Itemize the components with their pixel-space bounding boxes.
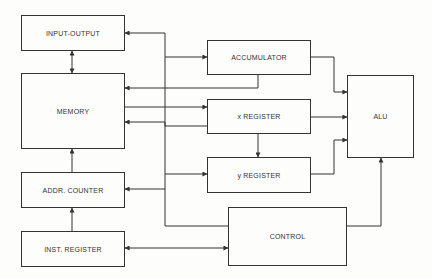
input-output-label: INPUT-OUTPUT [46, 30, 100, 37]
inst-register-block: INST. REGISTER [21, 231, 125, 267]
wire-y_register-to-alu [311, 140, 347, 174]
addr-counter-label: ADDR. COUNTER [43, 187, 104, 194]
alu-label: ALU [373, 113, 387, 120]
accumulator-label: ACCUMULATOR [231, 54, 287, 61]
wire-control-to-alu [347, 158, 381, 226]
wire-accumulator-to-alu [311, 57, 347, 92]
control-block: CONTROL [228, 207, 347, 266]
alu-block: ALU [347, 75, 414, 158]
x-register-block: x REGISTER [207, 99, 311, 134]
memory-block: MEMORY [21, 73, 125, 149]
input-output-block: INPUT-OUTPUT [21, 15, 125, 51]
wire-accumulator-to-memory [125, 75, 258, 88]
addr-counter-block: ADDR. COUNTER [21, 172, 125, 208]
x-register-label: x REGISTER [237, 113, 280, 120]
wire-x_register-to-memory [125, 122, 207, 126]
memory-label: MEMORY [57, 108, 90, 115]
control-label: CONTROL [270, 233, 306, 240]
inst-register-label: INST. REGISTER [44, 246, 102, 253]
y-register-block: y REGISTER [207, 157, 311, 193]
y-register-label: y REGISTER [237, 172, 280, 179]
accumulator-block: ACCUMULATOR [207, 40, 311, 75]
